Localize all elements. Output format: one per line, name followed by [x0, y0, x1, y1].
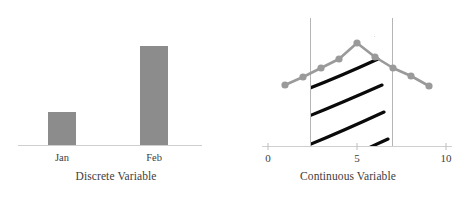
data-point: [299, 73, 306, 80]
data-point: [335, 55, 342, 62]
panel-continuous-variable: 0 5 10 Continuous Variable: [232, 0, 464, 200]
tick-label-0: 0: [258, 152, 278, 164]
caption-continuous-variable: Continuous Variable: [232, 170, 464, 182]
data-point: [407, 72, 414, 79]
figure-container: Jan Feb Discrete Variable: [0, 0, 464, 200]
data-line: [285, 43, 429, 86]
tick-label-10: 10: [435, 152, 457, 164]
tick-label-jan: Jan: [32, 152, 92, 163]
data-point: [317, 64, 324, 71]
bar-feb: [140, 46, 168, 145]
caption-discrete-variable: Discrete Variable: [0, 170, 232, 182]
data-point: [353, 39, 360, 46]
tick-label-feb: Feb: [124, 152, 184, 163]
data-point: [389, 64, 396, 71]
panel-discrete-variable: Jan Feb Discrete Variable: [0, 0, 232, 200]
data-point: [425, 82, 432, 89]
tick-label-5: 5: [347, 152, 367, 164]
data-point: [371, 53, 378, 60]
data-point: [281, 81, 288, 88]
data-point-markers: [281, 39, 432, 89]
bar-jan: [48, 112, 76, 145]
